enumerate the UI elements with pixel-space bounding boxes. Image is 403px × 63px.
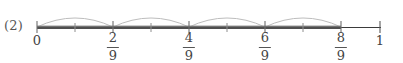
tick-label-1: 1 [376, 34, 384, 47]
fraction-denominator: 9 [335, 48, 347, 63]
fraction-numerator: 2 [107, 31, 119, 48]
fraction-denominator: 9 [183, 48, 195, 63]
tick-label-2-9: 2 9 [107, 31, 119, 63]
fraction-numerator: 8 [335, 31, 347, 48]
tick-label-0: 0 [33, 34, 41, 47]
tick-label-4-9: 4 9 [183, 31, 195, 63]
fraction-numerator: 6 [259, 31, 271, 48]
number-line-figure: (2) 0 [0, 0, 403, 63]
fraction-denominator: 9 [107, 48, 119, 63]
tick-label-8-9: 8 9 [335, 31, 347, 63]
fraction-denominator: 9 [259, 48, 271, 63]
tick-label-6-9: 6 9 [259, 31, 271, 63]
fraction-numerator: 4 [183, 31, 195, 48]
